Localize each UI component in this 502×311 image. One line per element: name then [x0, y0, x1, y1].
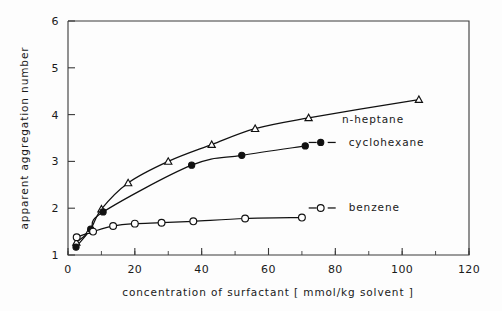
x-tick-label: 0: [64, 263, 71, 276]
marker-open-triangle: [165, 158, 172, 164]
x-tick-label: 100: [391, 263, 413, 276]
x-tick-label: 80: [328, 263, 343, 276]
marker-open-circle: [299, 214, 306, 221]
marker-open-circle: [110, 223, 117, 230]
y-tick-label: 1: [52, 249, 59, 262]
marker-open-circle: [190, 218, 197, 225]
marker-open-triangle: [415, 96, 422, 102]
x-tick-label: 120: [458, 263, 480, 276]
x-axis-title: concentration of surfactant [ mmol/kg so…: [122, 286, 413, 298]
x-tick-label: 60: [261, 263, 276, 276]
x-major-ticks: [68, 248, 469, 255]
x-tick-labels: 020406080100120: [64, 263, 480, 276]
series-labels: n-heptanecyclohexanebenzene: [309, 113, 425, 214]
y-tick-label: 6: [52, 15, 59, 28]
series-label-benzene: benzene: [349, 201, 400, 213]
marker-filled-circle: [100, 209, 106, 215]
marker-open-circle: [73, 234, 80, 241]
chart-canvas: 020406080100120 123456 n-heptanecyclohex…: [0, 0, 502, 311]
y-tick-label: 3: [52, 155, 59, 168]
y-tick-label: 2: [52, 202, 59, 215]
y-major-ticks: [68, 21, 75, 255]
legend-marker-filled-circle: [318, 139, 324, 145]
marker-open-circle: [158, 219, 165, 226]
marker-filled-circle: [239, 152, 245, 158]
marker-filled-circle: [73, 244, 79, 250]
marker-open-circle: [131, 220, 138, 227]
y-tick-label: 5: [52, 62, 59, 75]
x-tick-label: 40: [194, 263, 209, 276]
series-label-n-heptane: n-heptane: [342, 113, 404, 125]
marker-open-triangle: [125, 179, 132, 185]
chart-figure: 020406080100120 123456 n-heptanecyclohex…: [0, 0, 502, 311]
marker-open-circle: [242, 215, 249, 222]
y-tick-label: 4: [52, 109, 59, 122]
marker-filled-circle: [189, 162, 195, 168]
y-axis-title: apparent aggregation number: [18, 47, 30, 230]
marker-open-circle: [90, 228, 97, 235]
legend-marker-open-circle: [317, 205, 324, 212]
y-tick-labels: 123456: [52, 15, 59, 262]
series-label-cyclohexane: cyclohexane: [349, 136, 425, 148]
curve-cyclohexane: [76, 146, 305, 247]
marker-filled-circle: [302, 143, 308, 149]
x-tick-label: 20: [127, 263, 142, 276]
